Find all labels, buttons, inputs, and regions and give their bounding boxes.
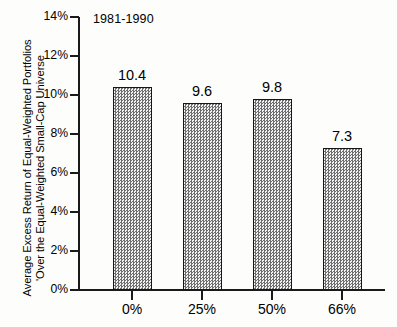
- x-axis-tick-label: 66%: [307, 301, 377, 317]
- y-axis-tick-label-wrap: 0%: [26, 290, 68, 291]
- y-axis-tick: [70, 172, 79, 174]
- bar: [323, 148, 362, 290]
- bar-chart: Average Excess Return of Equal-Weighted …: [0, 0, 397, 327]
- y-axis-tick: [70, 289, 79, 291]
- period-annotation: 1981-1990: [93, 12, 154, 26]
- y-axis-tick: [70, 133, 79, 135]
- y-axis-tick-label: 0%: [30, 282, 68, 296]
- y-axis-tick: [70, 94, 79, 96]
- y-axis-tick-label: 14%: [30, 9, 68, 23]
- x-axis-tick: [201, 291, 203, 300]
- y-axis-tick-label: 8%: [30, 126, 68, 140]
- y-axis-tick-label: 4%: [30, 204, 68, 218]
- y-axis-tick-label-wrap: 14%: [26, 17, 68, 18]
- y-axis-tick-label-wrap: 12%: [26, 56, 68, 57]
- bar-value-label: 10.4: [97, 67, 167, 83]
- bar: [253, 99, 292, 290]
- x-axis-tick-label: 25%: [167, 301, 237, 317]
- y-axis-tick: [70, 211, 79, 213]
- bar: [113, 87, 152, 290]
- y-axis-tick-label-wrap: 2%: [26, 251, 68, 252]
- y-axis-tick-label: 12%: [30, 48, 68, 62]
- bar-value-label: 9.6: [167, 83, 237, 99]
- x-axis-tick: [131, 291, 133, 300]
- y-axis-tick: [70, 16, 79, 18]
- x-axis-tick: [341, 291, 343, 300]
- y-axis-tick-label: 2%: [30, 243, 68, 257]
- y-axis-tick-label: 10%: [30, 87, 68, 101]
- y-axis-tick: [70, 55, 79, 57]
- bar: [183, 103, 222, 290]
- bar-value-label: 9.8: [237, 79, 307, 95]
- x-axis-tick-label: 0%: [97, 301, 167, 317]
- y-axis-tick-label-wrap: 8%: [26, 134, 68, 135]
- bar-value-label: 7.3: [307, 128, 377, 144]
- y-axis-tick-label-wrap: 4%: [26, 212, 68, 213]
- y-axis-tick-label: 6%: [30, 165, 68, 179]
- x-axis-tick-label: 50%: [237, 301, 307, 317]
- y-axis-tick-label-wrap: 10%: [26, 95, 68, 96]
- x-axis-tick: [271, 291, 273, 300]
- y-axis-tick-label-wrap: 6%: [26, 173, 68, 174]
- y-axis-tick: [70, 250, 79, 252]
